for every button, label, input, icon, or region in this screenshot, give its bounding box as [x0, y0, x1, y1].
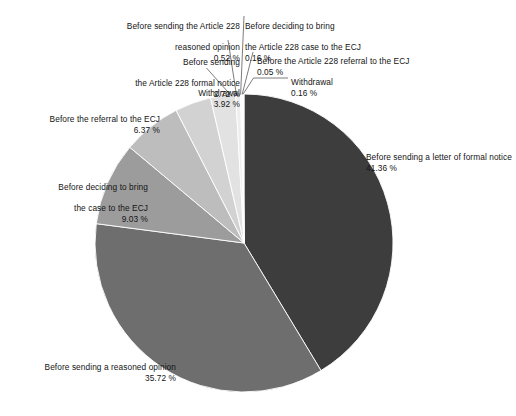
- slice-label-withdrawal-016: Withdrawal 0.16 %: [291, 67, 401, 109]
- slice-label-deciding-case-ecj: Before deciding to bring the case to the…: [8, 172, 148, 235]
- slice-label-text-line1: Before deciding to bring: [58, 182, 148, 192]
- slice-label-text: Before sending a letter of formal notice: [366, 152, 512, 162]
- slice-label-text: Before sending a reasoned opinion: [45, 362, 176, 372]
- slice-label-formal-notice: Before sending a letter of formal notice…: [366, 142, 516, 184]
- pie-chart-figure: Before sending the Article 228 reasoned …: [0, 0, 516, 416]
- slice-label-text-line1: Before deciding to bring: [245, 21, 335, 31]
- slice-label-referral-ecj: Before the referral to the ECJ 6.37 %: [32, 104, 160, 146]
- slice-label-text: Before the referral to the ECJ: [50, 114, 160, 124]
- slice-label-text-line1: Before sending the Article 228: [127, 21, 240, 31]
- slice-label-reasoned-opinion: Before sending a reasoned opinion 35.72 …: [8, 352, 176, 394]
- slice-value-deciding-case-ecj: 9.03 %: [8, 214, 148, 224]
- slice-value-formal-notice: 41.36 %: [366, 163, 516, 173]
- slice-label-text: Withdrawal: [198, 88, 240, 98]
- slice-value-reasoned-opinion: 35.72 %: [8, 373, 176, 383]
- slice-value-withdrawal-016: 0.16 %: [291, 88, 401, 98]
- slice-label-text: Withdrawal: [291, 77, 333, 87]
- slice-value-referral-ecj: 6.37 %: [32, 125, 160, 135]
- slice-label-text-line1: Before sending: [183, 57, 240, 67]
- slice-label-text: Before the Article 228 referral to the E…: [257, 56, 409, 66]
- leader-line-a228-deciding: [241, 16, 244, 95]
- slice-label-text-line2: the case to the ECJ: [74, 203, 148, 213]
